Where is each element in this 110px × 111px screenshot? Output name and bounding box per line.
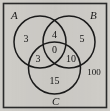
region-count-abc: 0 (52, 44, 57, 55)
region-count-ac-only: 3 (36, 53, 41, 64)
venn-diagram-figure: A B C 3 5 4 3 10 0 15 100 (0, 0, 110, 111)
region-count-b-only: 5 (80, 33, 85, 44)
set-label-b: B (90, 9, 97, 21)
region-count-ab-only: 4 (52, 29, 57, 40)
region-count-bc-only: 10 (66, 53, 76, 64)
set-label-a: A (10, 9, 18, 21)
region-count-c-only: 15 (50, 75, 60, 86)
region-count-outside: 100 (87, 67, 101, 77)
venn-diagram-canvas: A B C 3 5 4 3 10 0 15 100 (0, 0, 110, 111)
set-label-c: C (52, 95, 60, 107)
region-count-a-only: 3 (24, 33, 29, 44)
